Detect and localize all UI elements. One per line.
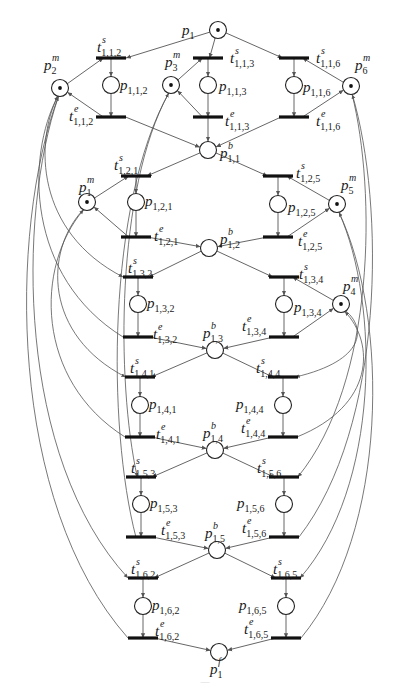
transition-label-t132s: t1,3,2s <box>128 255 152 279</box>
token-icon <box>216 28 220 32</box>
arc-t134e-p13b <box>223 337 273 348</box>
token-icon <box>85 200 89 204</box>
token-icon <box>58 86 62 90</box>
place-p141 <box>132 397 149 414</box>
arc-p2m-t112s <box>67 58 103 84</box>
resource-arc-p3m-t153s <box>124 93 169 477</box>
place-p134 <box>276 296 293 313</box>
place-label-p112: p1,1,2 <box>119 77 148 96</box>
place-p14b <box>207 442 224 459</box>
place-label-p2m: p2m <box>43 52 59 76</box>
arc-t121e-p1m <box>94 207 129 237</box>
place-label-p13b: p1,3b <box>202 320 223 344</box>
arc-p15b-t165s <box>225 553 276 578</box>
place-label-p116: p1,1,6 <box>302 79 331 98</box>
arc-p11b-t121s <box>147 153 200 176</box>
petri-net-diagram: t1,1,2st1,1,3st1,1,6st1,1,2et1,1,3et1,1,… <box>0 0 410 689</box>
place-p165 <box>278 598 295 615</box>
transition-label-t116e: t1,1,6e <box>316 108 340 132</box>
place-p121 <box>128 194 145 211</box>
place-p162 <box>135 598 152 615</box>
transition-label-t112e: t1,1,2e <box>69 103 93 127</box>
arc-p1-t113s <box>210 38 216 58</box>
place-p13b <box>207 342 224 359</box>
transition-label-t153s: t1,5,3s <box>131 455 155 479</box>
token-icon <box>349 84 353 88</box>
transition-label-t156e: t1,5,6e <box>242 515 266 539</box>
place-label-p153: p1,5,3 <box>149 495 178 514</box>
place-p156 <box>276 496 293 513</box>
transition-label-t144s: t1,4,4s <box>256 355 280 379</box>
place-label-p4m: p4m <box>342 273 358 297</box>
transition-label-t112s: t1,1,2s <box>97 34 121 58</box>
resource-arc-t162e-p2m <box>27 96 128 638</box>
transition-label-t141e: t1,4,1e <box>156 421 180 445</box>
transition-label-t125e: t1,2,5e <box>298 228 322 252</box>
place-label-p141: p1,4,1 <box>148 396 177 415</box>
transition-label-t121s: t1,2,1s <box>114 152 138 176</box>
place-label-p125: p1,2,5 <box>287 199 316 218</box>
resource-curves <box>27 93 373 638</box>
place-p144 <box>275 397 292 414</box>
arc-p13b-t141s <box>151 353 207 377</box>
transition-label-t116s: t1,1,6s <box>316 45 340 69</box>
place-p132 <box>130 296 147 313</box>
arc-p14b-t153s <box>152 453 207 477</box>
token-icon <box>339 302 343 306</box>
transition-label-t125s: t1,2,5s <box>296 160 320 184</box>
transition-label-t144e: t1,4,4e <box>241 415 265 439</box>
place-label-p162: p1,6,2 <box>151 597 180 616</box>
place-label-p134: p1,3,4 <box>293 299 322 318</box>
arc-p3m-t113s <box>178 58 203 80</box>
place-label-p5m: p5m <box>340 172 356 196</box>
arcs <box>67 32 343 650</box>
arc-p12b-t134s <box>217 251 273 277</box>
transition-label-t162e: t1,6,2e <box>155 618 179 642</box>
place-p153 <box>133 496 150 513</box>
place-p113 <box>200 77 217 94</box>
transition-label-t153e: t1,5,3e <box>161 517 185 541</box>
place-label-p12b: p1,2b <box>219 226 240 250</box>
place-p15b <box>209 542 226 559</box>
place-p125 <box>270 196 287 213</box>
place-label-p165: p1,6,5 <box>238 597 267 616</box>
place-p12b <box>201 240 218 257</box>
transition-label-t134e: t1,3,4e <box>242 313 266 337</box>
transition-label-t162s: t1,6,2s <box>131 556 155 580</box>
transition-label-t165s: t1,6,5s <box>273 556 297 580</box>
arc-t112e-p11b <box>126 117 200 147</box>
transition-label-t113e: t1,1,3e <box>225 108 249 132</box>
arc-t113e-p3m <box>177 91 202 117</box>
token-icon <box>335 202 339 206</box>
transition-label-t113s: t1,1,3s <box>230 45 254 69</box>
place-label-p156: p1,5,6 <box>236 495 265 514</box>
place-p112 <box>103 77 120 94</box>
resource-arc-p1m-t141s <box>58 210 126 377</box>
place-label-p14b: p1,4b <box>202 420 223 444</box>
place-label-p6m: p6m <box>354 52 370 76</box>
transition-label-t134s: t1,3,4s <box>299 261 323 285</box>
transition-label-t156s: t1,5,6s <box>257 455 281 479</box>
transition-label-t132e: t1,3,2e <box>153 321 177 345</box>
place-p116 <box>286 77 303 94</box>
resource-arc-p4m-t144s <box>295 311 357 377</box>
place-label-p121: p1,2,1 <box>144 193 173 212</box>
place-label-p144: p1,4,4 <box>235 396 264 415</box>
token-icon <box>169 83 173 87</box>
transition-label-t121e: t1,2,1e <box>154 223 178 247</box>
figure-caption: — <box>200 676 211 686</box>
place-label-p1: p1 <box>181 22 195 41</box>
arc-p12b-t132s <box>149 251 201 277</box>
place-label-p11b: p1,1b <box>219 140 240 164</box>
transition-label-t141s: t1,4,1s <box>130 355 154 379</box>
place-label-p113: p1,1,3 <box>218 78 247 97</box>
arc-p1m-t121s <box>95 176 129 198</box>
arc-p15b-t162s <box>154 553 209 578</box>
transition-label-t165e: t1,6,5e <box>244 616 268 640</box>
place-p11b <box>200 142 217 159</box>
place-label-p15b: p1,5b <box>204 520 225 544</box>
place-label-p132: p1,3,2 <box>146 295 175 314</box>
resource-arc-t141e-p1m <box>51 210 125 437</box>
place-label-p3m: p3m <box>164 49 180 73</box>
